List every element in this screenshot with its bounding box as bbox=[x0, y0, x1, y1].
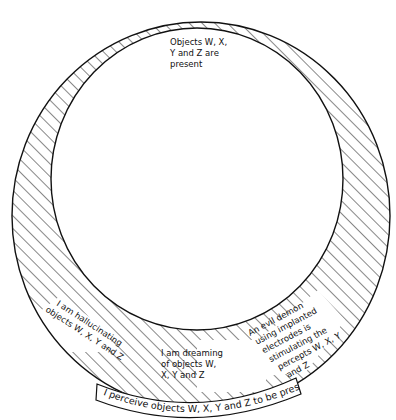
inner-circle bbox=[51, 28, 343, 330]
diagram-canvas: Objects W, X, Y and Z are present I am h… bbox=[0, 0, 396, 420]
